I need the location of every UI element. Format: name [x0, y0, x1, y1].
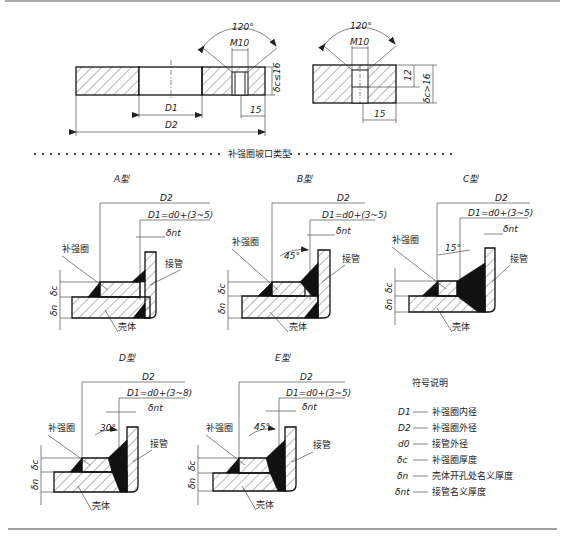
svg-text:δn: δn — [397, 471, 409, 481]
svg-text:δc: δc — [217, 283, 227, 294]
svg-text:δn: δn — [49, 304, 59, 316]
svg-text:δc: δc — [30, 459, 40, 470]
drawing-canvas: 120° M10 δc≤16 D1 D2 15 120° — [0, 0, 565, 543]
svg-text:D1=d0+(3~5): D1=d0+(3~5) — [286, 388, 351, 398]
svg-text:D2: D2 — [398, 423, 411, 433]
svg-text:δnt: δnt — [166, 228, 181, 238]
svg-text:δc: δc — [384, 282, 394, 293]
angle-label: 120° — [232, 22, 254, 32]
svg-text:d0: d0 — [398, 439, 410, 449]
symbol-legend: 符号说明 D1 补强圈内径 D2 补强圈外径 d0 接管外径 δc 补强圈厚度 … — [395, 377, 513, 497]
svg-text:补强圈: 补强圈 — [62, 243, 89, 254]
type-d-title: D型 — [119, 353, 136, 363]
thread-label-2: M10 — [350, 37, 369, 47]
svg-text:δn: δn — [187, 477, 197, 489]
svg-text:δn: δn — [217, 302, 227, 314]
svg-text:补强圈外径: 补强圈外径 — [432, 422, 477, 433]
legend-item: δn 壳体开孔处名义厚度 — [397, 470, 513, 481]
svg-text:D2: D2 — [337, 193, 350, 203]
svg-text:δn: δn — [30, 478, 40, 490]
svg-text:δnt: δnt — [148, 403, 163, 413]
svg-text:补强圈: 补强圈 — [48, 422, 75, 433]
type-b-title: B型 — [297, 174, 313, 184]
type-d-diagram: D型 D2 D1=d0+(3~8) δnt 30° 补强圈 接管 壳体 δc δ… — [30, 353, 192, 511]
svg-text:补强圈: 补强圈 — [392, 234, 419, 245]
svg-text:接管: 接管 — [150, 438, 168, 449]
type-a-title: A型 — [113, 174, 130, 184]
svg-text:补强圈: 补强圈 — [232, 236, 259, 247]
legend-item: D2 补强圈外径 — [398, 422, 477, 433]
section-title: 补强圈坡口类型 — [228, 148, 291, 159]
depth-label: 12 — [403, 69, 413, 81]
legend-item: δc 补强圈厚度 — [397, 454, 477, 465]
legend-item: D1 补强圈内径 — [398, 406, 477, 417]
svg-text:补强圈内径: 补强圈内径 — [432, 406, 477, 417]
svg-text:壳体: 壳体 — [92, 500, 110, 511]
svg-text:壳体: 壳体 — [289, 321, 307, 332]
svg-text:30°: 30° — [100, 423, 116, 433]
offset-label-2: 15 — [374, 109, 386, 119]
svg-text:δc: δc — [397, 455, 408, 465]
svg-text:壳体开孔处名义厚度: 壳体开孔处名义厚度 — [432, 470, 513, 481]
type-c-diagram: C型 D2 D1=d0+(3~5) δnt 15° 补强圈 接管 壳体 δc δ… — [384, 174, 533, 332]
legend-item: d0 接管外径 — [398, 438, 468, 449]
svg-text:D1: D1 — [398, 407, 411, 417]
svg-text:壳体: 壳体 — [452, 321, 470, 332]
svg-text:补强圈厚度: 补强圈厚度 — [432, 454, 477, 465]
svg-text:接管外径: 接管外径 — [432, 438, 468, 449]
svg-text:D1=d0+(3~5): D1=d0+(3~5) — [148, 210, 213, 220]
d2-label: D2 — [165, 120, 178, 130]
type-c-title: C型 — [463, 174, 479, 184]
svg-text:δnt: δnt — [302, 402, 317, 412]
svg-text:接管: 接管 — [342, 253, 360, 264]
thread-label: M10 — [230, 38, 249, 48]
svg-text:D2: D2 — [142, 372, 155, 382]
section-divider: 补强圈坡口类型 — [34, 148, 452, 159]
type-a-diagram: A型 D2 D1=d0+(3~5) δnt 补强圈 接管 壳体 δc δn — [49, 174, 213, 332]
svg-text:D2: D2 — [160, 193, 173, 203]
svg-text:δnt: δnt — [336, 226, 351, 236]
svg-text:接管: 接管 — [165, 258, 183, 269]
type-e-diagram: E型 D2 D1=d0+(3~5) δnt 45° 补强圈 接管 壳体 δc δ… — [187, 353, 351, 510]
legend-title: 符号说明 — [412, 377, 448, 388]
svg-text:45°: 45° — [254, 422, 270, 432]
svg-text:δnt: δnt — [395, 487, 410, 497]
svg-text:δc: δc — [187, 460, 197, 471]
svg-text:D2: D2 — [495, 193, 508, 203]
svg-text:接管: 接管 — [510, 253, 528, 264]
svg-text:D1=d0+(3~8): D1=d0+(3~8) — [127, 388, 192, 398]
svg-text:补强圈: 补强圈 — [206, 422, 233, 433]
top-view-1: 120° M10 δc≤16 D1 D2 15 — [76, 22, 282, 136]
svg-text:壳体: 壳体 — [256, 499, 274, 510]
svg-text:δn: δn — [384, 298, 394, 310]
thickness-label-2: δc>16 — [422, 73, 432, 103]
top-view-2: 120° M10 12 δc>16 15 — [313, 21, 437, 123]
thickness-label: δc≤16 — [272, 62, 282, 92]
angle-label-2: 120° — [350, 21, 372, 31]
legend-item: δnt 接管名义厚度 — [395, 486, 486, 497]
svg-text:壳体: 壳体 — [118, 321, 136, 332]
offset-label: 15 — [250, 105, 262, 115]
svg-text:D1=d0+(3~5): D1=d0+(3~5) — [322, 210, 387, 220]
type-b-diagram: B型 D2 D1=d0+(3~5) δnt 45° 补强圈 接管 壳体 δc δ… — [217, 174, 387, 332]
svg-text:δc: δc — [49, 285, 59, 296]
svg-text:接管: 接管 — [313, 439, 331, 450]
d1-label: D1 — [165, 103, 178, 113]
svg-text:D1=d0+(3~5): D1=d0+(3~5) — [468, 208, 533, 218]
svg-text:δnt: δnt — [503, 224, 518, 234]
svg-text:D2: D2 — [300, 372, 313, 382]
type-e-title: E型 — [275, 353, 291, 363]
svg-text:接管名义厚度: 接管名义厚度 — [432, 486, 486, 497]
